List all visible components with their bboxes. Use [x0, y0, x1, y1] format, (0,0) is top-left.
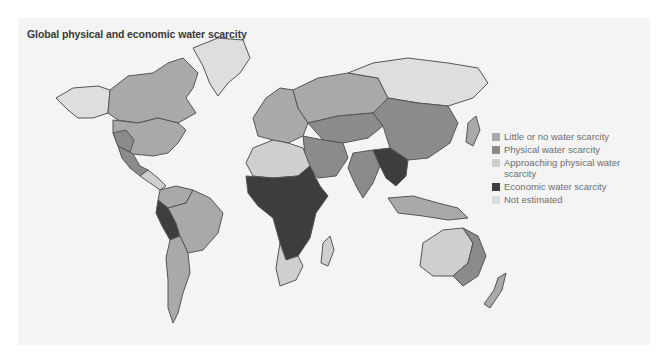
legend-item-approaching: Approaching physical water scarcity: [492, 157, 652, 179]
region-madagascar: [321, 236, 334, 266]
region-sub-saharan-africa: [246, 166, 328, 260]
legend-swatch-approaching: [492, 159, 500, 167]
region-north-africa: [246, 140, 310, 178]
legend-item-little: Little or no water scarcity: [492, 131, 652, 142]
legend-item-economic: Economic water scarcity: [492, 181, 652, 192]
region-indonesia: [388, 196, 468, 220]
map-panel: Global physical and economic water scarc…: [18, 18, 650, 345]
legend-swatch-economic: [492, 183, 500, 191]
legend-swatch-little: [492, 133, 500, 141]
map-title: Global physical and economic water scarc…: [27, 28, 247, 40]
legend-label: Little or no water scarcity: [504, 131, 624, 142]
legend-item-not-estimated: Not estimated: [492, 194, 652, 205]
legend-label: Approaching physical water scarcity: [504, 157, 624, 179]
legend-item-physical: Physical water scarcity: [492, 144, 652, 155]
legend-label: Physical water scarcity: [504, 144, 624, 155]
region-japan: [466, 116, 480, 146]
region-central-america: [140, 170, 166, 190]
region-new-zealand: [484, 273, 506, 308]
region-southern-cone: [166, 236, 190, 323]
region-greenland: [193, 38, 250, 96]
legend-swatch-physical: [492, 146, 500, 154]
legend-label: Economic water scarcity: [504, 181, 624, 192]
legend-swatch-not-estimated: [492, 196, 500, 204]
legend-label: Not estimated: [504, 194, 624, 205]
region-canada: [108, 58, 198, 123]
legend: Little or no water scarcity Physical wat…: [492, 131, 652, 207]
region-alaska: [56, 86, 110, 118]
region-india: [348, 150, 380, 198]
